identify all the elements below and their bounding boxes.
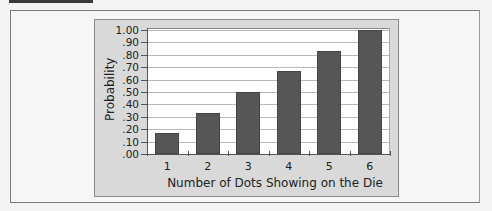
x-tick-label: 6 (360, 160, 380, 173)
x-tick (228, 151, 229, 156)
y-tick (141, 104, 147, 105)
x-tick (350, 151, 351, 156)
gridline (147, 92, 389, 93)
bar-5 (317, 51, 341, 154)
x-tick-label: 1 (157, 160, 177, 173)
y-tick (141, 92, 147, 93)
x-tick (390, 151, 391, 156)
y-tick (141, 129, 147, 130)
x-axis-title: Number of Dots Showing on the Die (165, 176, 385, 190)
x-tick (269, 151, 270, 156)
y-tick (141, 117, 147, 118)
y-tick-label: .10 (99, 137, 139, 147)
y-tick (141, 67, 147, 68)
y-tick (141, 80, 147, 81)
bar-2 (196, 113, 220, 154)
bar-6 (358, 30, 382, 154)
y-tick-label: .20 (99, 124, 139, 134)
plot-area (147, 28, 390, 154)
y-axis-line (147, 28, 148, 155)
x-tick-label: 3 (238, 160, 258, 173)
x-tick (188, 151, 189, 156)
x-tick-label: 4 (279, 160, 299, 173)
y-tick-label: 1.00 (99, 25, 139, 35)
gridline (147, 104, 389, 105)
y-tick-label: .00 (99, 149, 139, 159)
y-tick (141, 30, 147, 31)
gridline (147, 129, 389, 130)
gridline (147, 55, 389, 56)
gridline (147, 117, 389, 118)
bar-4 (277, 71, 301, 154)
x-tick (147, 151, 148, 156)
gridline (147, 30, 389, 31)
y-axis-title: Probability (103, 61, 117, 121)
gridline (147, 42, 389, 43)
x-tick (309, 151, 310, 156)
y-tick-label: .90 (99, 37, 139, 47)
gridline (147, 142, 389, 143)
gridline (147, 80, 389, 81)
y-tick (141, 55, 147, 56)
bar-1 (155, 133, 179, 154)
y-tick (141, 42, 147, 43)
x-tick-label: 5 (319, 160, 339, 173)
bar-3 (236, 92, 260, 154)
y-tick (141, 142, 147, 143)
header-tab-bar (9, 0, 93, 3)
x-tick-label: 2 (198, 160, 218, 173)
gridline (147, 67, 389, 68)
